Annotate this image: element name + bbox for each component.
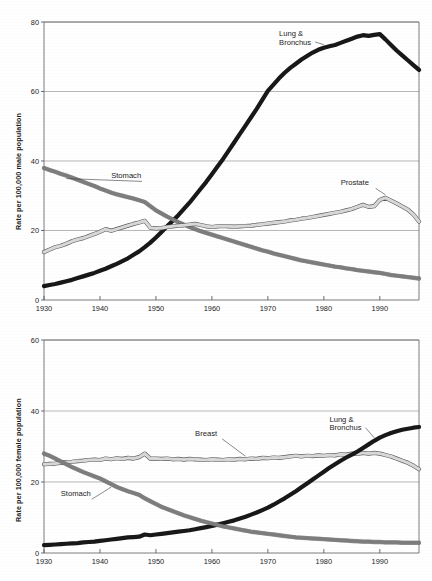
x-tick-label-1970: 1970: [260, 304, 276, 313]
x-tick-label-1930: 1930: [36, 557, 52, 566]
annotation-stomach: Stomach: [61, 487, 111, 499]
x-tick-label-1990: 1990: [372, 304, 388, 313]
annotation-label-stomach: Stomach: [61, 489, 91, 498]
x-tick-label-1950: 1950: [148, 304, 164, 313]
annotation-prostate: Prostate: [341, 178, 386, 195]
chart-panel-male: Rate per 100,000 male population 0204060…: [0, 0, 432, 322]
x-tick-label-1930: 1930: [36, 304, 52, 313]
annotation-lung: Lung &Bronchus: [329, 415, 374, 438]
annotation-leader-stomach: [92, 487, 111, 499]
x-tick-label-1960: 1960: [204, 304, 220, 313]
y-tick-label-40: 40: [31, 157, 39, 166]
cancer-death-rate-figure: Rate per 100,000 male population 0204060…: [0, 0, 432, 581]
annotation-leader-prostate: [376, 188, 386, 195]
y-tick-label-60: 60: [31, 336, 39, 345]
x-tick-label-1990: 1990: [372, 557, 388, 566]
chart-panel-female: Rate per 100,000 female population 02040…: [0, 322, 432, 581]
annotation-label2-lung: Bronchus: [329, 423, 361, 432]
y-tick-label-20: 20: [31, 226, 39, 235]
x-tick-label-1940: 1940: [92, 557, 108, 566]
series-line-stomach: [44, 454, 419, 543]
annotation-label-prostate: Prostate: [341, 178, 369, 187]
chart-svg-female: 02040601930194019501960197019801990Breas…: [0, 322, 432, 581]
annotation-label-breast: Breast: [195, 429, 218, 438]
annotation-leader-lung: [365, 428, 374, 438]
series-line-lung-bronchus: [44, 34, 419, 286]
y-tick-label-40: 40: [31, 407, 39, 416]
x-tick-label-1960: 1960: [204, 557, 220, 566]
x-tick-label-1980: 1980: [316, 304, 332, 313]
annotation-lung: Lung &Bronchus: [279, 29, 324, 47]
y-tick-label-60: 60: [31, 87, 39, 96]
chart-svg-male: 0204060801930194019501960197019801990Lun…: [0, 0, 432, 322]
y-tick-label-20: 20: [31, 478, 39, 487]
x-tick-label-1980: 1980: [316, 557, 332, 566]
annotation-leader-lung: [315, 42, 324, 45]
x-tick-label-1970: 1970: [260, 557, 276, 566]
annotation-breast: Breast: [195, 429, 245, 456]
annotation-leader-breast: [222, 439, 245, 456]
annotation-label2-lung: Bronchus: [279, 38, 311, 47]
y-tick-label-80: 80: [31, 18, 39, 27]
annotation-label-stomach: Stomach: [111, 171, 141, 180]
x-tick-label-1940: 1940: [92, 304, 108, 313]
x-tick-label-1950: 1950: [148, 557, 164, 566]
